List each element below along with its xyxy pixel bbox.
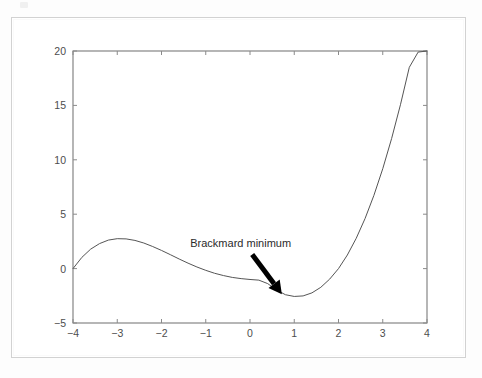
x-tick-label: 3 bbox=[380, 327, 386, 339]
plot-area: −4−3−2−101234−505101520Brackmard minimum bbox=[12, 18, 467, 359]
image-artifact bbox=[20, 2, 28, 8]
x-tick-label: −2 bbox=[156, 327, 168, 339]
plot-background bbox=[73, 51, 427, 323]
figure-frame: −4−3−2−101234−505101520Brackmard minimum bbox=[11, 17, 466, 358]
y-tick-label: 15 bbox=[54, 99, 66, 111]
x-tick-label: −4 bbox=[67, 327, 79, 339]
y-tick-label: 0 bbox=[60, 263, 66, 275]
x-tick-label: 0 bbox=[247, 327, 253, 339]
y-tick-label: 20 bbox=[54, 45, 66, 57]
x-tick-label: 1 bbox=[291, 327, 297, 339]
chart-screenshot: −4−3−2−101234−505101520Brackmard minimum bbox=[0, 0, 482, 378]
x-tick-label: −1 bbox=[200, 327, 212, 339]
annotation-label: Brackmard minimum bbox=[190, 237, 291, 249]
x-tick-label: 2 bbox=[336, 327, 342, 339]
y-tick-label: 5 bbox=[60, 208, 66, 220]
x-tick-label: 4 bbox=[424, 327, 430, 339]
x-tick-label: −3 bbox=[111, 327, 123, 339]
y-tick-label: 10 bbox=[54, 154, 66, 166]
y-tick-label: −5 bbox=[54, 317, 66, 329]
